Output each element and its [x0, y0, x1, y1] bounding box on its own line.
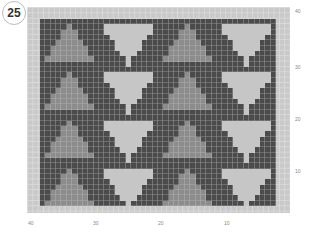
- row-number-label: 30: [295, 64, 301, 70]
- chart-cell: [271, 201, 276, 206]
- row-number-label: 20: [295, 116, 301, 122]
- column-number-label: 10: [224, 220, 230, 226]
- chart-number-badge: 25: [2, 1, 26, 25]
- knitting-chart-grid: [40, 19, 276, 206]
- column-number-label: 20: [158, 220, 164, 226]
- column-number-label: 30: [93, 220, 99, 226]
- row-number-label: 10: [295, 168, 301, 174]
- column-number-label: 40: [28, 220, 34, 226]
- row-number-label: 40: [295, 8, 301, 14]
